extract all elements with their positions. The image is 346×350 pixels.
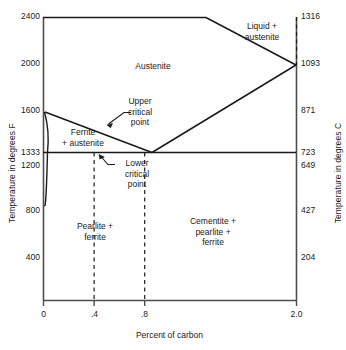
region-label-austenite: Austenite [108,61,198,72]
y-axis-title-right: Temperature in degrees C [333,113,343,233]
annotation-upper-critical-point: Upper critical point [114,96,166,128]
xtick-0p4: .4 [84,309,105,319]
ytick-left-2000: 2000 [0,58,40,68]
ytick-left-1600: 1600 [0,105,40,115]
ytick-left-2400: 2400 [0,11,40,21]
ytick-left-800: 800 [0,205,40,215]
ytick-right-1316: 1316 [301,11,341,21]
ytick-right-204: 204 [301,252,341,262]
y-axis-title-left: Temperature in degrees F [7,113,17,233]
ytick-left-1200: 1200 [0,160,40,170]
annotation-lower-critical-point: Lower critical point [111,158,163,190]
chart-background [0,0,346,350]
xtick-0p8: .8 [134,309,155,319]
xtick-2p0: 2.0 [284,309,309,319]
ytick-left-400: 400 [0,252,40,262]
region-label-ferrite-plus-austenite: Ferrite + austenite [44,127,122,148]
region-label-cementite-pearlite-ferrite: Cementite + pearlite + ferrite [173,216,253,248]
region-label-pearlite-plus-ferrite: Pearlite + ferrite [62,221,128,242]
xtick-0: 0 [33,309,54,319]
iron-carbon-phase-diagram [0,0,346,350]
ytick-right-1093: 1093 [301,58,341,68]
ytick-left-1333: 1333 [0,147,40,157]
x-axis-title: Percent of carbon [43,330,296,340]
region-label-liquid-plus-austenite: Liquid + austenite [233,21,291,42]
